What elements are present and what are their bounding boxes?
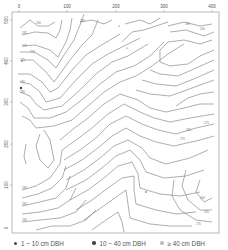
x-tick: 100 (63, 4, 71, 9)
svg-text:260: 260 (36, 21, 41, 25)
legend-item-medium: 10 ~ 40 cm DBH (92, 240, 146, 247)
svg-text:280: 280 (20, 80, 25, 84)
svg-text:290: 290 (185, 22, 190, 26)
legend: 1 ~ 10 cm DBH 10 ~ 40 cm DBH ≥ 40 cm DBH (0, 236, 228, 250)
svg-text:270: 270 (180, 137, 185, 141)
y-tick: 400 (4, 57, 9, 65)
y-tick: 300 (4, 98, 9, 106)
svg-text:285: 285 (80, 19, 85, 23)
contour-map: 0 100 200 300 400 500 400 300 200 100 0 (0, 0, 228, 235)
contour-labels: 260 265 270 270 275 280 280 285 290 260 … (20, 19, 209, 226)
tree-markers (20, 25, 147, 192)
svg-text:285: 285 (22, 202, 27, 206)
y-tick: 500 (4, 16, 9, 24)
x-tick: 0 (18, 4, 21, 9)
tree-marker (21, 60, 23, 62)
legend-item-large: ≥ 40 cm DBH (160, 240, 205, 247)
legend-label: 10 ~ 40 cm DBH (100, 240, 146, 247)
x-tick: 400 (208, 4, 216, 9)
svg-text:280: 280 (20, 90, 25, 94)
tree-marker (20, 87, 22, 89)
contour-lines (18, 14, 214, 232)
x-tick: 200 (112, 4, 120, 9)
svg-text:265: 265 (204, 210, 209, 214)
x-axis: 0 100 200 300 400 (18, 4, 217, 12)
tree-marker (126, 47, 127, 48)
svg-text:290: 290 (22, 218, 27, 222)
x-tick: 300 (160, 4, 168, 9)
svg-text:265: 265 (186, 128, 191, 132)
legend-label: ≥ 40 cm DBH (168, 240, 205, 247)
tree-marker (118, 25, 119, 26)
legend-item-small: 1 ~ 10 cm DBH (14, 240, 64, 247)
small-tree-dot-icon (14, 242, 17, 245)
svg-text:280: 280 (22, 186, 27, 190)
svg-text:260: 260 (200, 196, 205, 200)
svg-text:260: 260 (200, 27, 205, 31)
y-axis: 500 400 300 200 100 0 (4, 16, 12, 230)
large-tree-dot-icon (160, 241, 164, 245)
tree-marker (145, 191, 147, 193)
medium-tree-dot-icon (92, 241, 96, 245)
svg-text:270: 270 (196, 222, 201, 226)
y-tick: 200 (4, 140, 9, 148)
svg-text:270: 270 (30, 50, 35, 54)
legend-label: 1 ~ 10 cm DBH (21, 240, 64, 247)
y-tick: 0 (4, 226, 9, 229)
y-tick: 100 (4, 181, 9, 189)
svg-text:265: 265 (22, 31, 27, 35)
svg-text:275: 275 (204, 121, 209, 125)
svg-text:270: 270 (22, 44, 27, 48)
